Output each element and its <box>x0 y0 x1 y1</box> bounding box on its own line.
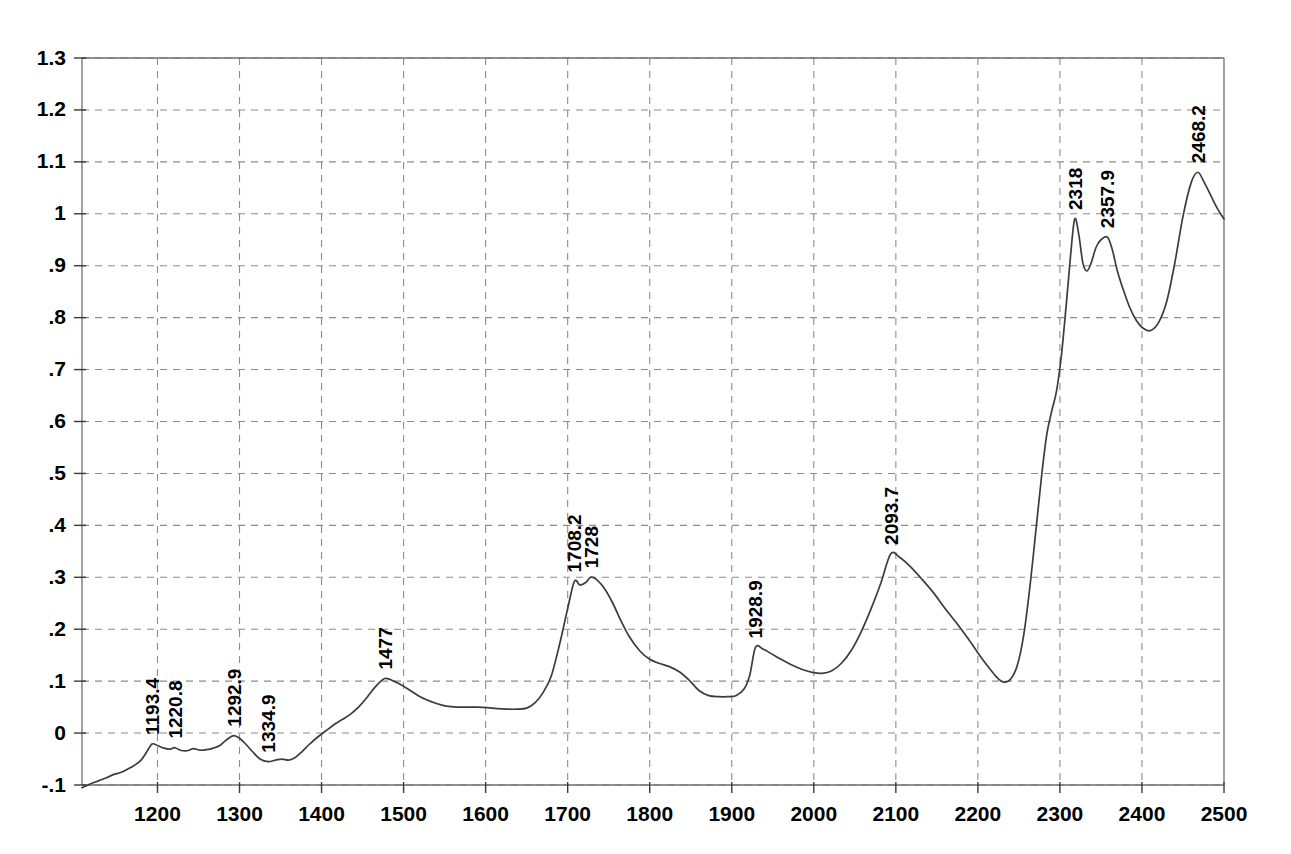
y-axis-tick-label: .9 <box>48 253 66 276</box>
x-axis-tick-label: 1700 <box>544 802 591 825</box>
x-axis-tick-label: 2500 <box>1201 802 1248 825</box>
y-axis-tick-label: .2 <box>48 617 66 640</box>
peak-label: 1334.9 <box>258 695 279 753</box>
y-axis-tick-label: .5 <box>48 461 66 484</box>
x-axis-tick-label: 2200 <box>955 802 1002 825</box>
peak-label: 1728 <box>581 526 602 568</box>
y-axis-tick-label: 0 <box>54 721 66 744</box>
x-axis-tick-label: 1900 <box>708 802 755 825</box>
peak-label: 2468.2 <box>1188 105 1209 163</box>
y-axis-tick-label: .4 <box>48 513 66 536</box>
peak-label: 1292.9 <box>224 669 245 727</box>
x-axis-tick-labels: 1200130014001500160017001800190020002100… <box>134 802 1247 825</box>
peak-annotations: 1193.41220.81292.91334.914771708.2172819… <box>142 105 1209 753</box>
peak-label: 1477 <box>375 627 396 669</box>
x-axis-tick-label: 1200 <box>134 802 181 825</box>
x-axis-tick-label: 1400 <box>298 802 345 825</box>
peak-label: 1928.9 <box>745 580 766 638</box>
y-axis-tick-label: 1.1 <box>37 149 67 172</box>
x-axis-tick-label: 1800 <box>626 802 673 825</box>
spectrum-chart: -.10.1.2.3.4.5.6.7.8.911.11.21.3 1200130… <box>0 0 1291 854</box>
x-axis-tick-label: 2000 <box>790 802 837 825</box>
y-axis-tick-label: .3 <box>48 565 66 588</box>
peak-label: 1220.8 <box>165 680 186 738</box>
peak-label: 2357.9 <box>1097 170 1118 228</box>
x-axis-tick-label: 2400 <box>1119 802 1166 825</box>
spectrum-trace <box>82 172 1224 787</box>
spectrum-plot-svg: -.10.1.2.3.4.5.6.7.8.911.11.21.3 1200130… <box>0 0 1291 854</box>
y-axis-tick-label: .8 <box>48 305 66 328</box>
peak-label: 2318 <box>1065 168 1086 210</box>
tick-marks <box>74 58 1224 793</box>
y-axis-tick-label: .6 <box>48 409 66 432</box>
y-axis-tick-label: .7 <box>48 357 66 380</box>
x-axis-tick-label: 1600 <box>462 802 509 825</box>
peak-label: 1193.4 <box>142 677 163 734</box>
grid-lines <box>82 58 1224 785</box>
y-axis-tick-label: 1.3 <box>37 46 66 69</box>
x-axis-tick-label: 1500 <box>380 802 427 825</box>
x-axis-tick-label: 1300 <box>216 802 263 825</box>
y-axis-tick-label: 1 <box>54 201 66 224</box>
y-axis-tick-label: 1.2 <box>37 97 66 120</box>
spectrum-curve <box>82 172 1224 787</box>
y-axis-tick-label: -.1 <box>41 773 66 796</box>
x-axis-tick-label: 2100 <box>872 802 919 825</box>
y-axis-tick-labels: -.10.1.2.3.4.5.6.7.8.911.11.21.3 <box>37 46 67 796</box>
x-axis-tick-label: 2300 <box>1037 802 1084 825</box>
y-axis-tick-label: .1 <box>48 669 66 692</box>
peak-label: 2093.7 <box>881 487 902 545</box>
